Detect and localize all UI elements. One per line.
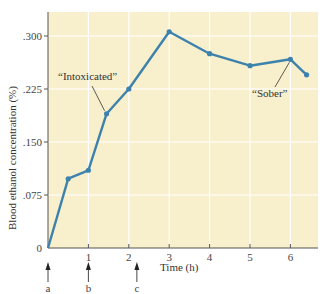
annotation-intoxicated: “Intoxicated” bbox=[58, 70, 117, 82]
annotation-sober: “Sober” bbox=[252, 87, 288, 99]
data-point bbox=[247, 63, 252, 68]
chart: 0.075.150.225.300 123456 “Intoxicated”“S… bbox=[0, 0, 323, 294]
data-point bbox=[288, 57, 293, 62]
data-point bbox=[207, 51, 212, 56]
y-axis-title: Blood ethanol concentration (%) bbox=[6, 86, 19, 230]
x-tick-label: 6 bbox=[288, 251, 294, 263]
x-axis-title: Time (h) bbox=[160, 261, 199, 274]
marker-arrow-icon bbox=[46, 262, 51, 270]
data-point bbox=[66, 176, 71, 181]
x-tick-label: 1 bbox=[86, 251, 92, 263]
time-markers: abc bbox=[46, 262, 140, 294]
y-axis-ticks: 0.075.150.225.300 bbox=[23, 30, 48, 254]
y-tick-label: .300 bbox=[23, 30, 43, 42]
marker-label-b: b bbox=[86, 282, 92, 294]
data-point bbox=[167, 29, 172, 34]
data-point bbox=[86, 168, 91, 173]
x-tick-label: 2 bbox=[126, 251, 132, 263]
data-point bbox=[126, 86, 131, 91]
x-tick-label: 4 bbox=[207, 251, 213, 263]
marker-label-a: a bbox=[46, 282, 51, 294]
y-tick-label: 0 bbox=[37, 242, 43, 254]
data-point bbox=[104, 111, 109, 116]
marker-arrow-icon bbox=[134, 262, 139, 270]
y-tick-label: .075 bbox=[23, 189, 43, 201]
x-tick-label: 5 bbox=[247, 251, 253, 263]
y-tick-label: .150 bbox=[23, 136, 43, 148]
marker-arrow-icon bbox=[86, 262, 91, 270]
data-point bbox=[304, 72, 309, 77]
marker-label-c: c bbox=[134, 282, 139, 294]
y-tick-label: .225 bbox=[23, 83, 43, 95]
